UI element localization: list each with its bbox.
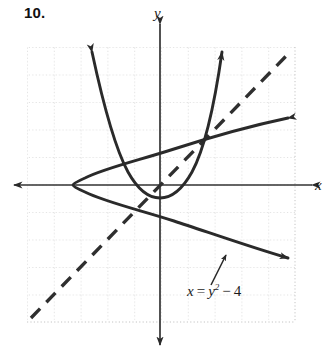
figure-container: 10. x y — [0, 0, 332, 352]
equation-constant: 4 — [234, 283, 242, 299]
equation-annotation: x=y2−4 — [187, 282, 241, 300]
equation-minus: − — [219, 283, 233, 299]
equation-rhs-var: y — [208, 283, 215, 299]
y-axis-label: y — [152, 5, 161, 21]
equation-equals: = — [194, 283, 208, 299]
coordinate-plot: x y — [0, 0, 332, 352]
equation-lhs: x — [187, 283, 194, 299]
x-axis-label: x — [314, 177, 322, 193]
